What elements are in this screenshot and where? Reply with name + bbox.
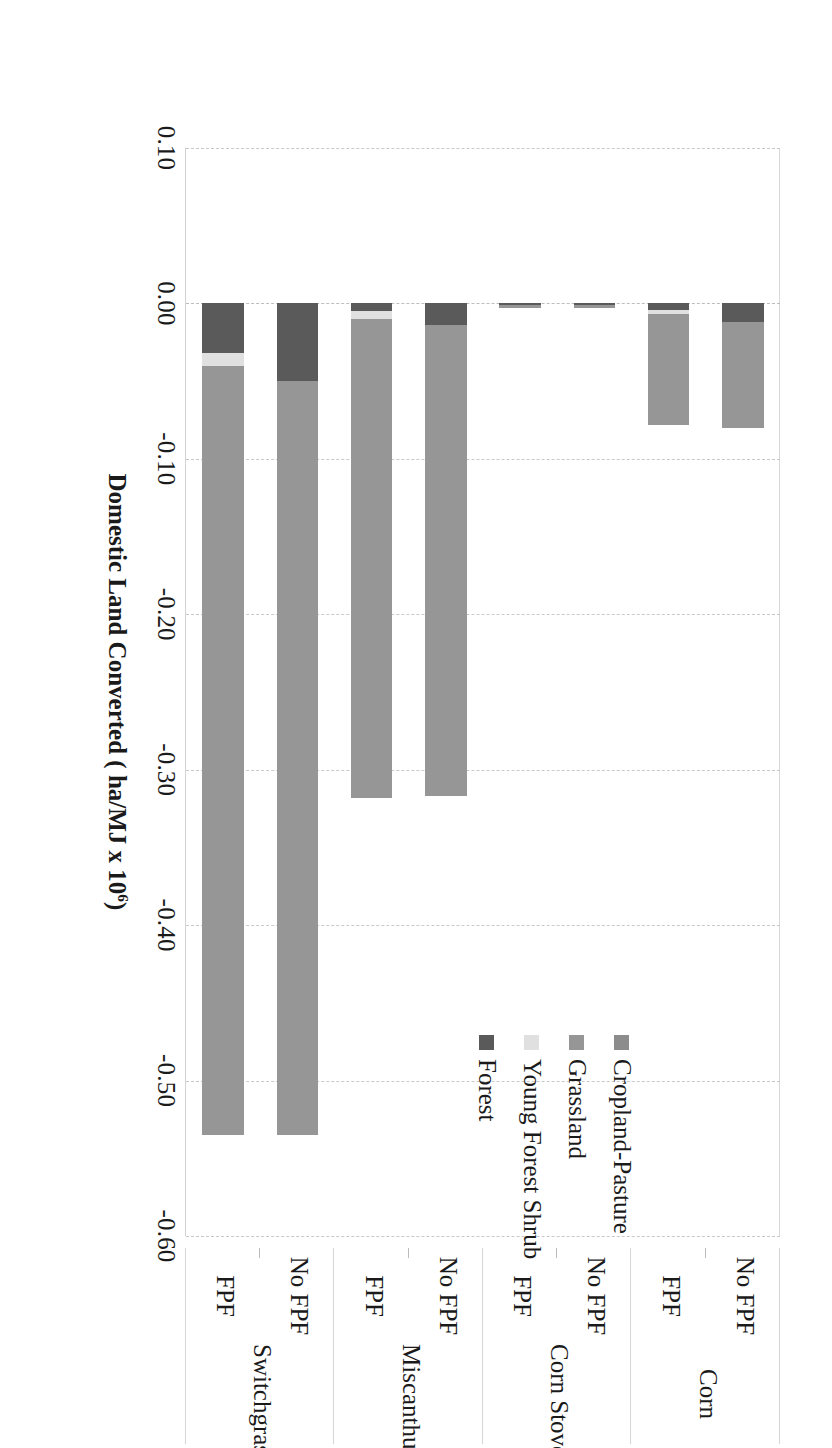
bar-segment-grassland (722, 322, 764, 428)
category-sublabel-switchgrass-fpf: FPF (211, 1248, 239, 1344)
legend-label-forest: Forest (473, 1059, 501, 1122)
bar-stack (202, 303, 244, 1135)
category-group-column: CornCorn StoverMiscanthusSwitchgrass (186, 1344, 780, 1444)
figure-rotation-wrapper: 0.100.00-0.10-0.20-0.30-0.40-0.50-0.60 D… (0, 0, 832, 1448)
tick-label--0.40: -0.40 (152, 899, 180, 952)
bar-segment-grassland (202, 366, 244, 1135)
axis-title-exponent: 6 (115, 894, 132, 902)
tick-label--0.50: -0.50 (152, 1054, 180, 1107)
bar-stack (722, 303, 764, 427)
bar-segment-grassland (499, 305, 541, 308)
bar-miscanthus-no-fpf (425, 148, 467, 1236)
category-tick (408, 1248, 409, 1258)
category-sublabel-corn-stover-no-fpf: No FPF (582, 1248, 610, 1344)
bar-miscanthus-fpf (351, 148, 393, 1236)
bar-segment-young-forest-shrub (351, 311, 393, 319)
bar-segment-grassland (425, 325, 467, 796)
bar-segment-grassland (574, 305, 616, 308)
category-sublabel-corn-fpf: FPF (657, 1248, 685, 1344)
value-axis-ticks: 0.100.00-0.10-0.20-0.30-0.40-0.50-0.60 (140, 148, 180, 1236)
legend-swatch-grassland (570, 1035, 585, 1050)
legend-label-young-forest-shrub: Young Forest Shrub (518, 1059, 546, 1259)
legend-swatch-cropland-pasture (615, 1035, 630, 1050)
legend-label-grassland: Grassland (563, 1059, 591, 1159)
tick-label-0.10: 0.10 (152, 126, 180, 171)
chart-legend: Cropland-PastureGrasslandYoung Forest Sh… (473, 1035, 636, 1259)
category-group-separator (482, 1248, 483, 1444)
bar-segment-forest (202, 303, 244, 353)
tick-label--0.10: -0.10 (152, 432, 180, 485)
chart-figure: 0.100.00-0.10-0.20-0.30-0.40-0.50-0.60 D… (0, 0, 832, 1448)
bar-segment-forest (351, 303, 393, 311)
tick-label--0.20: -0.20 (152, 588, 180, 641)
gridline--0.40 (186, 925, 780, 926)
bar-segment-forest (277, 303, 319, 381)
bar-segment-forest (722, 303, 764, 322)
bar-segment-grassland (648, 314, 690, 424)
category-group-label-corn: Corn (694, 1344, 722, 1444)
legend-item: Young Forest Shrub (518, 1035, 546, 1259)
legend-item: Forest (473, 1035, 501, 1259)
bar-stack (351, 303, 393, 797)
category-block-border (779, 1248, 780, 1444)
category-sublabel-miscanthus-no-fpf: No FPF (434, 1248, 462, 1344)
plot-top-border (779, 148, 780, 1236)
legend-item: Grassland (563, 1035, 591, 1259)
tick-label--0.60: -0.60 (152, 1209, 180, 1262)
value-axis-title: Domestic Land Converted ( ha/MJ x 106) (103, 148, 132, 1236)
category-group-label-corn-stover: Corn Stover (545, 1344, 573, 1444)
bar-segment-young-forest-shrub (202, 353, 244, 365)
bar-segment-forest (425, 303, 467, 325)
category-sublabel-corn-no-fpf: No FPF (731, 1248, 759, 1344)
bar-stack (499, 303, 541, 308)
tick-label-0.00: 0.00 (152, 281, 180, 326)
category-sublabel-switchgrass-no-fpf: No FPF (285, 1248, 313, 1344)
category-sublabel-column: No FPFFPFNo FPFFPFNo FPFFPFNo FPFFPF (186, 1248, 780, 1344)
gridline--0.30 (186, 770, 780, 771)
legend-swatch-young-forest-shrub (525, 1035, 540, 1050)
legend-swatch-forest (480, 1035, 495, 1050)
bar-corn-fpf (648, 148, 690, 1236)
category-tick (259, 1248, 260, 1258)
category-tick (556, 1248, 557, 1258)
category-group-separator (334, 1248, 335, 1444)
category-group-label-switchgrass: Switchgrass (248, 1344, 276, 1444)
category-group-separator (631, 1248, 632, 1444)
gridline-0.10 (186, 148, 780, 149)
bar-stack (574, 303, 616, 308)
bar-stack (277, 303, 319, 1135)
bar-corn-no-fpf (722, 148, 764, 1236)
category-group-label-miscanthus: Miscanthus (397, 1344, 425, 1444)
bar-stack (648, 303, 690, 424)
legend-label-cropland-pasture: Cropland-Pasture (608, 1059, 636, 1234)
plot-bottom-border (185, 148, 186, 1236)
legend-item: Cropland-Pasture (608, 1035, 636, 1259)
category-tick (705, 1248, 706, 1258)
bar-stack (425, 303, 467, 796)
category-sublabel-miscanthus-fpf: FPF (360, 1248, 388, 1344)
axis-title-tail: ) (104, 902, 131, 910)
tick-label--0.30: -0.30 (152, 743, 180, 796)
category-block-border (185, 1248, 186, 1444)
bar-switchgrass-no-fpf (277, 148, 319, 1236)
bar-segment-grassland (277, 381, 319, 1135)
bar-segment-grassland (351, 319, 393, 798)
gridline-0.00 (186, 303, 780, 304)
bar-switchgrass-fpf (202, 148, 244, 1236)
gridline--0.10 (186, 459, 780, 460)
gridline--0.20 (186, 614, 780, 615)
category-sublabel-corn-stover-fpf: FPF (508, 1248, 536, 1344)
axis-title-main: Domestic Land Converted ( ha/MJ x 10 (104, 474, 131, 895)
